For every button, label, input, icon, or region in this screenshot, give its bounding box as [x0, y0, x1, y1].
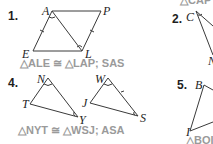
- vertex-label-P: P: [103, 4, 110, 19]
- answer-5-fragment: △BOI: [186, 134, 213, 144]
- answer-2-fragment: △CAP: [180, 0, 211, 7]
- problem-number-1: 1.: [8, 9, 18, 23]
- problem-number-5: 5.: [177, 78, 187, 92]
- vertex-label-N4: N: [37, 72, 45, 87]
- problem-number-2: 2.: [172, 12, 182, 26]
- vertex-label-J: J: [82, 96, 87, 111]
- vertex-label-C: C: [186, 10, 194, 25]
- vertex-label-N: N: [208, 54, 213, 69]
- vertex-label-W: W: [95, 72, 105, 87]
- figure-2: [196, 11, 213, 55]
- vertex-label-S: S: [140, 111, 146, 126]
- vertex-label-B: B: [195, 78, 202, 93]
- answer-4: △NYT ≅ △WSJ; ASA: [18, 124, 125, 137]
- problem-number-4: 4.: [8, 76, 18, 90]
- vertex-label-A: A: [42, 4, 49, 19]
- answer-1: △ALE ≅ △LAP; SAS: [20, 57, 124, 70]
- vertex-label-T: T: [22, 97, 29, 112]
